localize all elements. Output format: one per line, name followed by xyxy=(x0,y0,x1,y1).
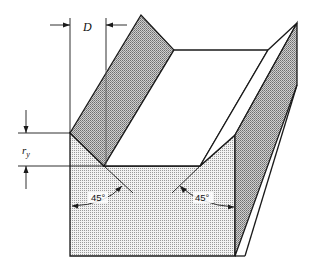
d-label: D xyxy=(82,20,92,34)
arrowhead-icon xyxy=(24,166,29,173)
arrowhead-icon xyxy=(106,23,113,28)
arrowhead-icon xyxy=(24,126,29,133)
left-angle-label: 45° xyxy=(91,192,106,203)
v-notch-diagram: D ry 45° 45° xyxy=(0,0,314,270)
arrowhead-icon xyxy=(63,23,70,28)
ry-label: ry xyxy=(22,144,30,159)
right-angle-label: 45° xyxy=(195,192,210,203)
